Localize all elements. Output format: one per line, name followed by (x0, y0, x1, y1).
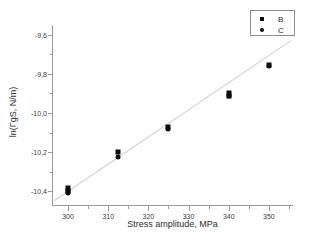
y-tick-major (48, 191, 53, 192)
x-tick-minor (128, 206, 129, 209)
x-tick-major (229, 206, 230, 211)
legend-marker-square-icon (260, 17, 264, 21)
x-tick-major (269, 206, 270, 211)
x-tick-major (108, 206, 109, 211)
plot-area: -9,6-9,8-10,0-10,2-10,4 3003103203303403… (52, 25, 293, 205)
legend-box: B C (250, 10, 295, 36)
data-point-c (66, 191, 71, 196)
data-point-c (226, 94, 231, 99)
x-tick-minor (168, 206, 169, 209)
x-tick-minor (289, 206, 290, 209)
data-point-c (116, 155, 121, 160)
y-tick-minor (50, 133, 53, 134)
legend-marker-circle-icon (260, 28, 264, 32)
legend-label-b: B (278, 15, 283, 24)
x-tick-minor (88, 206, 89, 209)
y-tick-label: -10,0 (31, 110, 47, 117)
legend-entry-c: C (251, 24, 294, 36)
y-tick-label: -10,4 (31, 188, 47, 195)
x-tick-major (148, 206, 149, 211)
y-tick-label: -9,6 (35, 31, 47, 38)
y-tick-major (48, 74, 53, 75)
y-tick-major (48, 113, 53, 114)
data-point-c (266, 64, 271, 69)
chart-screenshot: -9,6-9,8-10,0-10,2-10,4 3003103203303403… (0, 0, 309, 242)
y-tick-minor (50, 54, 53, 55)
y-tick-major (48, 35, 53, 36)
y-tick-label: -9,8 (35, 70, 47, 77)
x-tick-minor (249, 206, 250, 209)
y-tick-minor (50, 172, 53, 173)
y-axis-title: ln(ГgS, N/m) (8, 62, 18, 162)
legend-label-c: C (278, 26, 284, 35)
y-tick-major (48, 152, 53, 153)
x-tick-minor (209, 206, 210, 209)
x-axis-title: Stress amplitude, MPa (52, 219, 293, 229)
x-tick-major (68, 206, 69, 211)
data-point-c (166, 126, 171, 131)
x-tick-major (189, 206, 190, 211)
y-tick-minor (50, 93, 53, 94)
y-tick-label: -10,2 (31, 149, 47, 156)
trend-line (52, 25, 293, 205)
